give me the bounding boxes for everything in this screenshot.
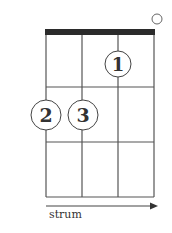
open-string-marker	[152, 14, 162, 24]
strings	[46, 35, 154, 197]
finger-marker-3: 3	[68, 100, 98, 130]
finger-label: 3	[76, 104, 89, 126]
finger-marker-1: 1	[105, 51, 131, 77]
strum-label: strum	[49, 208, 82, 221]
finger-label: 2	[39, 104, 52, 126]
frets	[46, 87, 154, 197]
nut	[45, 29, 155, 35]
chord-diagram: 1 2 3 strum	[0, 0, 172, 233]
finger-marker-2: 2	[31, 100, 61, 130]
finger-label: 1	[112, 54, 125, 75]
